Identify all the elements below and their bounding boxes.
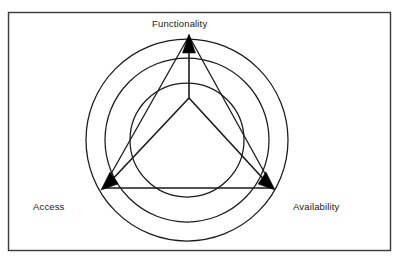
axis-label-availability: Availability xyxy=(293,202,340,212)
figure-frame xyxy=(9,13,391,251)
access-axis-shaft xyxy=(108,98,189,184)
availability-axis-shaft xyxy=(189,98,268,184)
diagram-figure: Functionality Access Availability xyxy=(0,0,403,266)
axis-label-functionality: Functionality xyxy=(152,19,207,29)
outer-circle xyxy=(86,39,288,241)
availability-arrowhead xyxy=(258,172,275,190)
access-arrowhead xyxy=(101,172,118,190)
axis-label-access: Access xyxy=(33,202,65,212)
diagram-canvas xyxy=(0,0,403,266)
